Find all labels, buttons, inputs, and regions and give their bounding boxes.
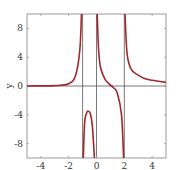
x-tick-label: 4	[149, 161, 155, 170]
plot-area	[27, 14, 166, 158]
x-tick-label: -2	[64, 161, 73, 170]
y-tick-label: -8	[14, 139, 23, 149]
y-tick-label: -4	[14, 110, 23, 120]
y-tick-label: 0	[17, 81, 23, 91]
x-tick-label: 2	[121, 161, 127, 170]
curve-branch	[83, 111, 94, 158]
chart: -4-2024 840-4-8 y	[0, 0, 182, 170]
x-axis-tick-labels: -4-2024	[37, 161, 156, 170]
x-tick-label: 0	[94, 161, 100, 170]
y-tick-label: 4	[17, 52, 23, 62]
y-axis-tick-labels: 840-4-8	[14, 23, 23, 148]
y-axis-label: y	[4, 83, 14, 90]
x-tick-label: -4	[37, 161, 46, 170]
curve-branch	[125, 14, 166, 82]
y-tick-label: 8	[17, 23, 23, 33]
curve-branch	[27, 14, 81, 86]
